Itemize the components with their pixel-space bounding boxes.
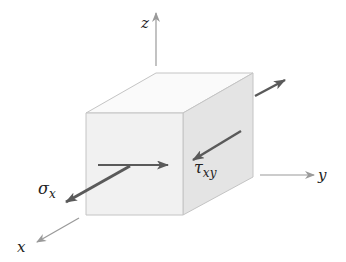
- shear-subscript: xy: [203, 166, 217, 180]
- y-axis-label: y: [317, 166, 327, 184]
- z-axis-label: z: [140, 14, 149, 32]
- shear-arrow-back: [255, 80, 285, 96]
- x-axis-label: x: [17, 238, 26, 256]
- x-axis: [37, 218, 79, 242]
- normal-stress-label: σx: [38, 179, 56, 201]
- stress-element-diagram: z y x τxy σx: [0, 0, 346, 262]
- normal-subscript: x: [49, 187, 56, 201]
